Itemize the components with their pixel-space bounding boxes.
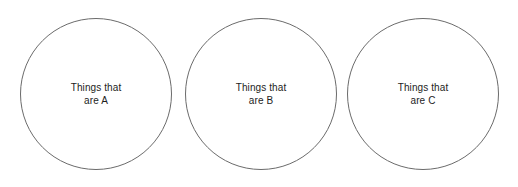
circle-a-label: Things that are A <box>20 81 172 108</box>
circle-b-label: Things that are B <box>185 81 337 108</box>
circle-set: Things that are A Things that are B Thin… <box>0 0 518 187</box>
diagram-canvas: Things that are A Things that are B Thin… <box>0 0 518 187</box>
circle-c-label: Things that are C <box>347 81 499 108</box>
